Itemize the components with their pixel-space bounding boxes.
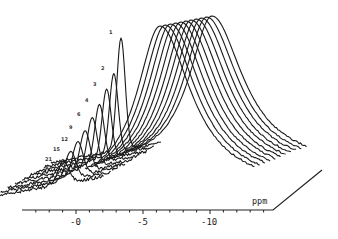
series-label: 2: [101, 65, 105, 71]
series-label: 3: [93, 81, 97, 87]
nmr-stacked-spectra-chart: 211512964321 -0 -5 -10 ppm: [0, 0, 338, 239]
series-label: 15: [53, 146, 60, 152]
tick-label-0: -0: [70, 217, 81, 227]
x-axis: -0 -5 -10 ppm: [22, 170, 322, 227]
series-label: 6: [77, 111, 81, 117]
sharp-spectrum-trace: [37, 89, 147, 172]
axis-unit-label: ppm: [252, 196, 267, 206]
sharp-peak-curves: [0, 38, 161, 196]
x-axis-line: [22, 170, 322, 210]
broad-peak-curves: [85, 16, 307, 169]
tick-label-10: -10: [201, 217, 217, 227]
series-label: 4: [85, 97, 89, 103]
series-label: 21: [45, 156, 52, 162]
series-label: 12: [61, 136, 68, 142]
tick-label-5: -5: [137, 217, 148, 227]
sharp-spectrum-trace: [44, 74, 154, 168]
series-label: 9: [69, 124, 73, 130]
series-label: 1: [109, 29, 113, 35]
